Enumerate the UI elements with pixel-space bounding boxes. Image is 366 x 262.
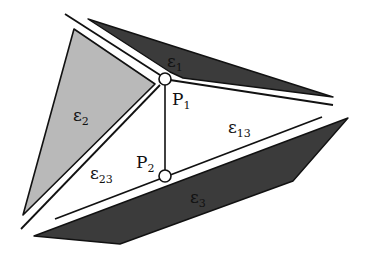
- label-e13: ε13: [228, 119, 251, 139]
- label-p1: P1: [172, 91, 190, 111]
- label-e23: ε23: [90, 165, 113, 185]
- label-p1-sub: 1: [183, 99, 190, 112]
- label-p1-base: P: [172, 89, 183, 109]
- point-p2: [159, 170, 171, 182]
- label-e23-sub: 23: [99, 173, 113, 186]
- label-e2-base: ε: [73, 105, 82, 125]
- diagram-canvas: [0, 0, 366, 262]
- label-e3: ε3: [190, 189, 206, 209]
- plane-e2: [23, 29, 155, 215]
- label-e2-sub: 2: [82, 115, 89, 128]
- label-e3-sub: 3: [199, 197, 206, 210]
- label-e1-sub: 1: [176, 61, 183, 74]
- label-p2-base: P: [136, 152, 147, 172]
- point-p1: [159, 73, 171, 85]
- label-p2-sub: 2: [147, 162, 154, 175]
- label-p2: P2: [136, 154, 154, 174]
- label-e13-sub: 13: [237, 127, 251, 140]
- label-e13-base: ε: [228, 117, 237, 137]
- label-e2: ε2: [73, 107, 89, 127]
- label-e23-base: ε: [90, 163, 99, 183]
- label-e3-base: ε: [190, 187, 199, 207]
- label-e1-base: ε: [167, 51, 176, 71]
- label-e1: ε1: [167, 53, 183, 73]
